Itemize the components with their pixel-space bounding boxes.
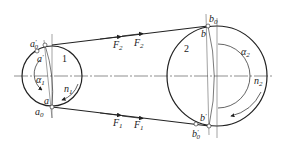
label-alpha2: α2: [241, 46, 250, 59]
label-f2-left: F2: [112, 39, 123, 52]
label-a0-prime: a'0: [30, 38, 39, 51]
label-n1: n1: [64, 83, 73, 96]
label-b0: b0: [209, 13, 218, 26]
point-a0-marker: [50, 105, 54, 109]
belt-slack-side: [52, 107, 209, 126]
belt-drive-diagram: a'0 a' 1 α1 n1 a a0 F2 F2 F1 F1 b0 b 2 α…: [0, 0, 286, 149]
label-b: b: [201, 28, 206, 39]
point-b-marker: [206, 24, 210, 28]
label-b0-prime: b'0: [192, 128, 201, 141]
label-a: a: [44, 95, 49, 106]
n2-rotation-arrow: [231, 92, 261, 116]
label-a-prime: a': [37, 53, 44, 64]
label-f1-right: F1: [133, 119, 144, 132]
label-pulley-2: 2: [184, 43, 189, 54]
label-a0: a0: [35, 106, 44, 119]
point-a-prime-marker: [43, 43, 47, 47]
label-n2: n2: [254, 75, 263, 88]
label-f2-right: F2: [133, 37, 144, 50]
label-f1-left: F1: [112, 117, 123, 130]
point-b-prime-marker: [207, 124, 211, 128]
label-pulley-1: 1: [62, 53, 67, 64]
point-b0-prime-marker: [194, 122, 198, 126]
label-b-prime: b': [200, 112, 207, 123]
force-arrow-f1-left: [100, 113, 121, 116]
